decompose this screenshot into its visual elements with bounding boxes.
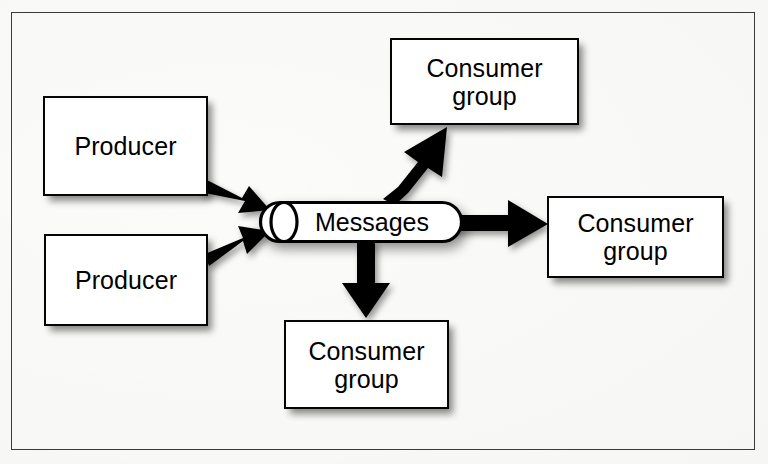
node-consumer-group-bottom-label: Consumer group — [308, 337, 424, 393]
edge-queue-to-consumer-right — [450, 200, 548, 247]
diagram-canvas: Producer Producer Consumer group Consume… — [0, 0, 768, 464]
queue-left-cap — [271, 203, 297, 242]
node-consumer-group-right-label: Consumer group — [577, 209, 693, 265]
node-consumer-group-right[interactable]: Consumer group — [547, 196, 724, 278]
edge-producer-1-to-queue — [200, 179, 270, 213]
edge-queue-to-consumer-bottom — [342, 240, 390, 318]
node-producer-2[interactable]: Producer — [44, 234, 208, 326]
node-messages-queue[interactable] — [266, 200, 456, 244]
edge-producer-2-to-queue — [205, 226, 270, 266]
node-producer-2-label: Producer — [75, 266, 177, 294]
node-consumer-group-top-label: Consumer group — [426, 54, 542, 110]
edge-queue-to-consumer-top — [383, 127, 447, 205]
node-consumer-group-top[interactable]: Consumer group — [390, 38, 579, 125]
node-producer-1-label: Producer — [74, 132, 176, 160]
node-producer-1[interactable]: Producer — [43, 96, 208, 196]
node-consumer-group-bottom[interactable]: Consumer group — [284, 320, 449, 409]
